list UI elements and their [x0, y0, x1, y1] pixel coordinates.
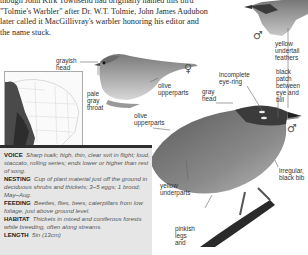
facts-list: VOICE Sharp tsaik; high, thin, clear svi…: [4, 151, 152, 239]
label-line: gray: [202, 88, 216, 95]
fact-heading: VOICE: [4, 152, 23, 158]
male-symbol-perched: ♂: [287, 123, 297, 134]
range-map: [4, 71, 83, 148]
label-line: olive: [158, 82, 189, 89]
fact-text: Sharp tsaik; high, thin, clear svit in f…: [4, 151, 150, 174]
label-line: olive: [134, 112, 165, 119]
label-line: incomplete: [219, 71, 250, 78]
label-line: underparts: [160, 189, 191, 196]
female-symbol: ♀: [184, 63, 192, 74]
fact-feeding: FEEDING Beetles, flies, bees, caterpilla…: [4, 199, 152, 215]
north-america-map-icon: [5, 72, 82, 147]
label-line: head: [56, 64, 77, 71]
label-line: eye-ring: [219, 78, 250, 85]
label-line: between: [276, 82, 308, 89]
male-symbol-flying: ♂: [253, 30, 263, 41]
fact-heading: NESTING: [4, 176, 31, 182]
label-pale-gray-throat: pale gray throat: [87, 90, 103, 111]
label-line: grayish: [56, 57, 77, 64]
label-gray-head: gray head: [202, 88, 216, 102]
fact-heading: LENGTH: [4, 232, 29, 238]
fact-nesting: NESTING Cup of plant material just off t…: [4, 175, 152, 199]
label-pinkish-legs: pinkish legs and: [175, 225, 195, 246]
label-line: yellow: [275, 40, 300, 47]
fact-length: LENGTH 5in (13cm): [4, 231, 152, 239]
fact-heading: HABITAT: [4, 216, 29, 222]
label-line: and: [175, 239, 195, 246]
label-line: upperparts: [158, 89, 189, 96]
label-line: upperparts: [134, 119, 165, 126]
fact-text: 5in (13cm): [32, 231, 61, 238]
label-line: throat: [87, 104, 103, 111]
label-grayish-head: grayish head: [56, 57, 77, 71]
label-line: gray: [87, 97, 103, 104]
label-irregular-black-bib: irregular, black bib: [279, 167, 304, 181]
label-line: feathers: [275, 54, 300, 61]
label-olive-upperparts-male: olive upperparts: [134, 112, 165, 126]
female-bird: [94, 54, 198, 108]
label-line: undertail: [275, 47, 300, 54]
panel-divider: [0, 145, 152, 148]
fact-habitat: HABITAT Thickets in mixed and coniferous…: [4, 215, 152, 231]
label-line: pinkish: [175, 225, 195, 232]
label-line: irregular,: [279, 167, 304, 174]
label-olive-upperparts-female: olive upperparts: [158, 82, 189, 96]
label-black-patch: black patch between eye and bill: [276, 68, 308, 103]
label-line: eye and bill: [276, 89, 308, 103]
fact-voice: VOICE Sharp tsaik; high, thin, clear svi…: [4, 151, 152, 175]
label-line: head: [202, 95, 216, 102]
label-line: yellow: [160, 182, 191, 189]
label-incomplete-eye-ring: incomplete eye-ring: [219, 71, 250, 85]
label-yellow-underparts: yellow underparts: [160, 182, 191, 196]
fact-heading: FEEDING: [4, 200, 31, 206]
label-line: legs: [175, 232, 195, 239]
label-yellow-undertail: yellow undertail feathers: [275, 40, 300, 61]
label-line: pale: [87, 90, 103, 97]
label-line: black bib: [279, 174, 304, 181]
label-line: black patch: [276, 68, 308, 82]
